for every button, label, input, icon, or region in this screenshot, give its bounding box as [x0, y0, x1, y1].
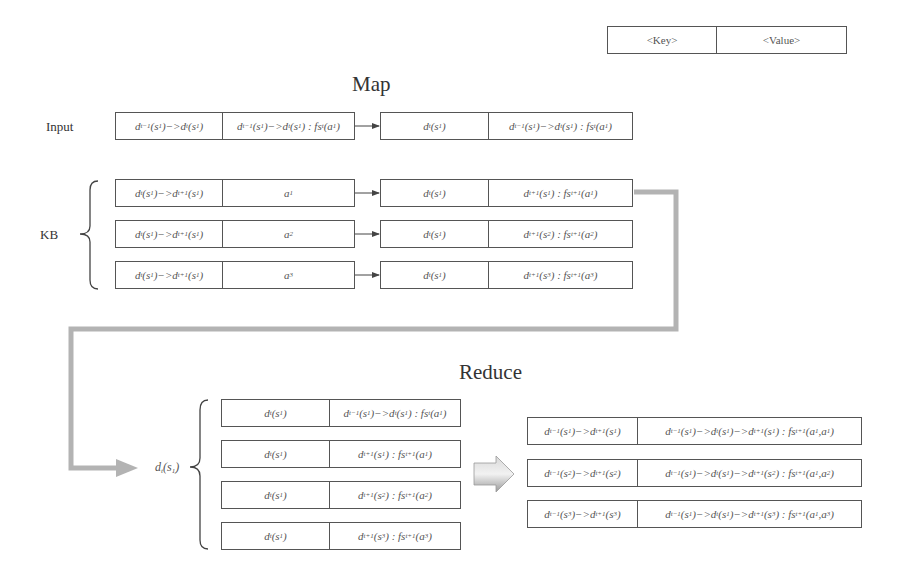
- input-out-key: dt(s1): [381, 113, 488, 139]
- kb-key: dt(s1)−>dt+1(s1): [116, 180, 222, 206]
- kb-out-value: dt+1(s2) : fst+1(a2): [488, 221, 632, 247]
- reduce-output-record-1: dt−1(s1)−>dt+1(s1) dt−1(s1)−>dt(s1)−>dt+…: [527, 417, 862, 445]
- kb-record-2: dt(s1)−>dt+1(s1) a2: [115, 220, 355, 248]
- kb-label: KB: [40, 227, 58, 243]
- reduce-group-record-3: dt(s1) dt+1(s2) : fst+1(a2): [221, 481, 461, 509]
- input-out-value: dt−1(s1)−>dt(s1) : fst(a1): [488, 113, 632, 139]
- kb-out-value: dt+1(s1) : fst+1(a1): [488, 180, 632, 206]
- reduce-output-record-3: dt−1(s3)−>dt+1(s3) dt−1(s1)−>dt(s1)−>dt+…: [527, 500, 862, 528]
- output-value: dt−1(s1)−>dt(s1)−>dt+1(s1) : fst+1(a1,a1…: [637, 418, 861, 444]
- kb-value: a1: [222, 180, 354, 206]
- input-value: dt−1(s1)−>dt(s1) : fst(a1): [222, 113, 354, 139]
- input-record: dt−1(s1)−>dt(s1) dt−1(s1)−>dt(s1) : fst(…: [115, 112, 355, 140]
- kb-map-output-3: dt(s1) dt+1(s3) : fst+1(a3): [380, 261, 633, 289]
- reduce-group-label: dt(s1): [155, 460, 179, 475]
- map-title: Map: [352, 72, 391, 97]
- kb-out-key: dt(s1): [381, 180, 488, 206]
- output-value: dt−1(s1)−>dt(s1)−>dt+1(s2) : fst+1(a1,a2…: [637, 460, 861, 486]
- kb-map-output-2: dt(s1) dt+1(s2) : fst+1(a2): [380, 220, 633, 248]
- kb-map-output-1: dt(s1) dt+1(s1) : fst+1(a1): [380, 179, 633, 207]
- flow-arrowhead-icon: [116, 459, 138, 477]
- kb-out-key: dt(s1): [381, 262, 488, 288]
- output-key: dt−1(s1)−>dt+1(s1): [528, 418, 637, 444]
- kb-brace: [80, 181, 98, 289]
- group-key: dt(s1): [222, 482, 329, 508]
- reduce-group-record-2: dt(s1) dt+1(s1) : fst+1(a1): [221, 440, 461, 468]
- group-value: dt+1(s3) : fst+1(a3): [329, 523, 460, 549]
- kb-out-key: dt(s1): [381, 221, 488, 247]
- legend-value: <Value>: [716, 27, 846, 53]
- reduce-brace: [190, 400, 208, 549]
- kb-value: a2: [222, 221, 354, 247]
- group-value: dt−1(s1)−>dt(s1) : fst(a1): [329, 400, 460, 426]
- kb-out-value: dt+1(s3) : fst+1(a3): [488, 262, 632, 288]
- reduce-output-record-2: dt−1(s2)−>dt+1(s2) dt−1(s1)−>dt(s1)−>dt+…: [527, 459, 862, 487]
- reduce-group-record-1: dt(s1) dt−1(s1)−>dt(s1) : fst(a1): [221, 399, 461, 427]
- group-key: dt(s1): [222, 441, 329, 467]
- legend-key-value: <Key> <Value>: [607, 26, 847, 54]
- kb-record-1: dt(s1)−>dt+1(s1) a1: [115, 179, 355, 207]
- legend-key: <Key>: [608, 27, 716, 53]
- kb-value: a3: [222, 262, 354, 288]
- kb-key: dt(s1)−>dt+1(s1): [116, 221, 222, 247]
- group-value: dt+1(s1) : fst+1(a1): [329, 441, 460, 467]
- group-key: dt(s1): [222, 400, 329, 426]
- map-arrows: [355, 126, 379, 275]
- input-label: Input: [46, 119, 73, 135]
- input-map-output: dt(s1) dt−1(s1)−>dt(s1) : fst(a1): [380, 112, 633, 140]
- reduce-group-record-4: dt(s1) dt+1(s3) : fst+1(a3): [221, 522, 461, 550]
- kb-key: dt(s1)−>dt+1(s1): [116, 262, 222, 288]
- output-key: dt−1(s3)−>dt+1(s3): [528, 501, 637, 527]
- output-key: dt−1(s2)−>dt+1(s2): [528, 460, 637, 486]
- kb-record-3: dt(s1)−>dt+1(s1) a3: [115, 261, 355, 289]
- group-key: dt(s1): [222, 523, 329, 549]
- group-value: dt+1(s2) : fst+1(a2): [329, 482, 460, 508]
- reduce-arrow-icon: [474, 456, 514, 492]
- input-key: dt−1(s1)−>dt(s1): [116, 113, 222, 139]
- output-value: dt−1(s1)−>dt(s1)−>dt+1(s3) : fst+1(a1,a3…: [637, 501, 861, 527]
- reduce-title: Reduce: [459, 360, 522, 385]
